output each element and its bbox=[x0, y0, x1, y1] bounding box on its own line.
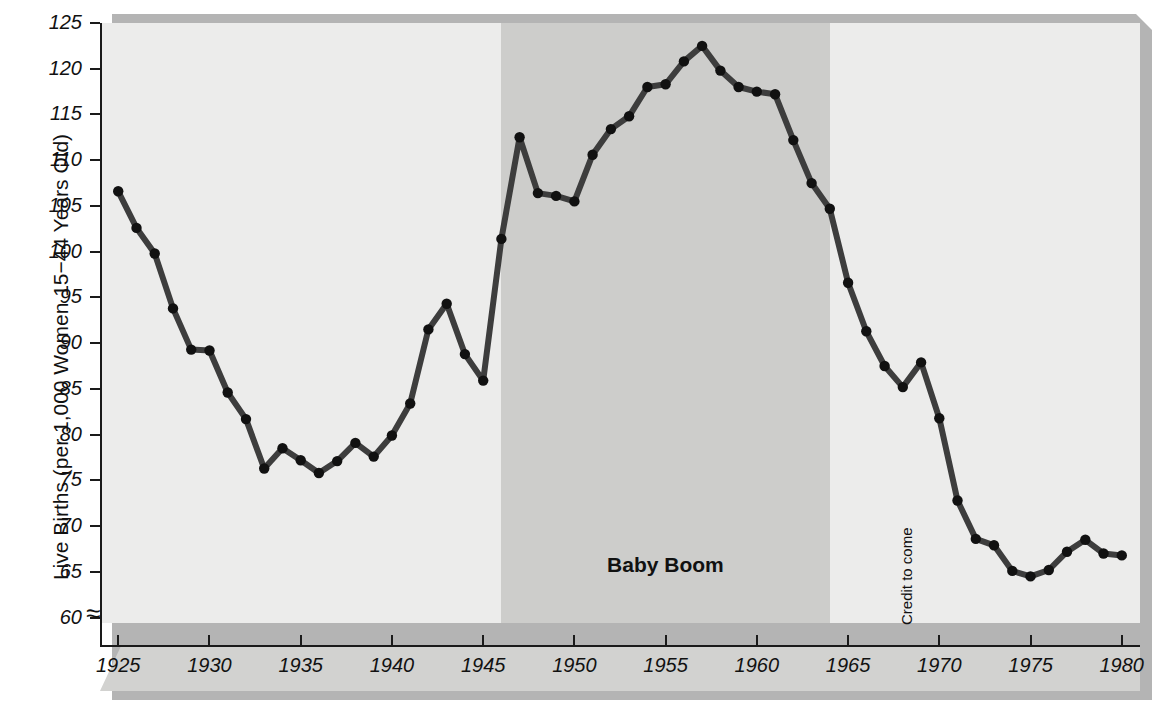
live-births-line bbox=[118, 46, 1122, 577]
data-point-1966 bbox=[861, 326, 871, 336]
data-point-1939 bbox=[369, 451, 379, 461]
data-point-1951 bbox=[587, 150, 597, 160]
data-point-1975 bbox=[1025, 571, 1035, 581]
data-point-1950 bbox=[569, 196, 579, 206]
data-point-1967 bbox=[879, 361, 889, 371]
data-point-1930 bbox=[204, 345, 214, 355]
data-point-1964 bbox=[825, 204, 835, 214]
data-point-1977 bbox=[1062, 547, 1072, 557]
data-point-1944 bbox=[460, 349, 470, 359]
data-point-1933 bbox=[259, 463, 269, 473]
data-point-1935 bbox=[296, 455, 306, 465]
data-point-1945 bbox=[478, 375, 488, 385]
data-point-1937 bbox=[332, 456, 342, 466]
data-point-1943 bbox=[442, 299, 452, 309]
data-point-1974 bbox=[1007, 566, 1017, 576]
data-point-1928 bbox=[168, 303, 178, 313]
data-point-1979 bbox=[1098, 548, 1108, 558]
data-point-1957 bbox=[697, 41, 707, 51]
data-point-1941 bbox=[405, 398, 415, 408]
data-point-1960 bbox=[752, 86, 762, 96]
data-point-1956 bbox=[679, 56, 689, 66]
data-point-1926 bbox=[131, 223, 141, 233]
data-point-1938 bbox=[350, 438, 360, 448]
data-point-1953 bbox=[624, 111, 634, 121]
data-series-layer bbox=[0, 0, 1161, 723]
data-point-1976 bbox=[1044, 565, 1054, 575]
data-point-1927 bbox=[150, 248, 160, 258]
data-point-1940 bbox=[387, 430, 397, 440]
data-point-1936 bbox=[314, 468, 324, 478]
data-point-1972 bbox=[971, 534, 981, 544]
data-point-1948 bbox=[533, 188, 543, 198]
data-point-1963 bbox=[806, 178, 816, 188]
data-point-1971 bbox=[952, 495, 962, 505]
data-point-1958 bbox=[715, 65, 725, 75]
data-point-1969 bbox=[916, 357, 926, 367]
data-point-1973 bbox=[989, 540, 999, 550]
data-point-1965 bbox=[843, 278, 853, 288]
data-point-1980 bbox=[1117, 550, 1127, 560]
data-point-1952 bbox=[606, 124, 616, 134]
data-point-1949 bbox=[551, 191, 561, 201]
data-point-1954 bbox=[642, 82, 652, 92]
data-point-1931 bbox=[223, 387, 233, 397]
data-point-1970 bbox=[934, 413, 944, 423]
data-point-1968 bbox=[898, 382, 908, 392]
data-point-1929 bbox=[186, 344, 196, 354]
data-point-1946 bbox=[496, 234, 506, 244]
data-point-1942 bbox=[423, 324, 433, 334]
data-point-1932 bbox=[241, 414, 251, 424]
data-point-1978 bbox=[1080, 535, 1090, 545]
data-point-1959 bbox=[733, 82, 743, 92]
data-point-1947 bbox=[514, 132, 524, 142]
data-point-1925 bbox=[113, 186, 123, 196]
chart-page: 1251201151101051009590858075706560 19251… bbox=[0, 0, 1161, 723]
data-point-1934 bbox=[277, 443, 287, 453]
data-point-1962 bbox=[788, 135, 798, 145]
data-point-1961 bbox=[770, 89, 780, 99]
data-point-1955 bbox=[660, 79, 670, 89]
